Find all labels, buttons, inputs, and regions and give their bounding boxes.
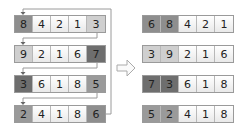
cell: 6 (33, 76, 51, 92)
cell: 8 (215, 106, 233, 122)
cell: 2 (179, 46, 197, 62)
cell: 3 (15, 76, 33, 92)
right-row-1: 6 8 4 2 1 (142, 15, 234, 33)
right-row-2: 3 9 2 1 6 (142, 45, 234, 63)
cell: 3 (161, 76, 179, 92)
cell: 1 (197, 76, 215, 92)
left-row-4: 2 4 1 8 6 (14, 105, 106, 123)
cell: 2 (33, 46, 51, 62)
cell: 3 (87, 16, 105, 32)
cell: 6 (87, 106, 105, 122)
cell: 4 (33, 106, 51, 122)
cell: 8 (69, 106, 87, 122)
cell: 1 (215, 16, 233, 32)
cell: 8 (161, 16, 179, 32)
cell: 1 (51, 106, 69, 122)
cell: 8 (15, 16, 33, 32)
cell: 3 (143, 46, 161, 62)
right-row-4: 5 2 4 1 8 (142, 105, 234, 123)
cell: 2 (197, 16, 215, 32)
cell: 6 (69, 46, 87, 62)
right-arrow-icon (117, 60, 135, 76)
cell: 9 (15, 46, 33, 62)
cell: 6 (179, 76, 197, 92)
cell: 8 (215, 76, 233, 92)
left-row-2: 9 2 1 6 7 (14, 45, 106, 63)
cell: 5 (143, 106, 161, 122)
left-row-3: 3 6 1 8 5 (14, 75, 106, 93)
cell: 4 (33, 16, 51, 32)
cell: 7 (143, 76, 161, 92)
cell: 1 (51, 46, 69, 62)
right-row-3: 7 3 6 1 8 (142, 75, 234, 93)
cell: 1 (51, 76, 69, 92)
cell: 4 (179, 106, 197, 122)
cell: 2 (51, 16, 69, 32)
cell: 2 (161, 106, 179, 122)
cell: 6 (215, 46, 233, 62)
cell: 1 (69, 16, 87, 32)
cell: 1 (197, 106, 215, 122)
cell: 4 (179, 16, 197, 32)
cell: 8 (69, 76, 87, 92)
cell: 2 (15, 106, 33, 122)
cell: 1 (197, 46, 215, 62)
cell: 9 (161, 46, 179, 62)
cell: 6 (143, 16, 161, 32)
left-row-1: 8 4 2 1 3 (14, 15, 106, 33)
cell: 5 (87, 76, 105, 92)
cell: 7 (87, 46, 105, 62)
